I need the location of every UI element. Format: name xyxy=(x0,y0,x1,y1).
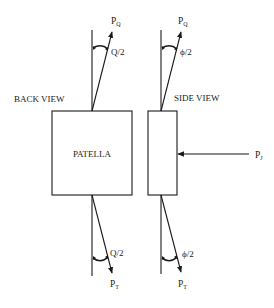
patella-label: PATELLA xyxy=(73,149,112,159)
back-bottom-angle-label: Q/2 xyxy=(110,248,124,258)
side-top-force-symbol: PQ xyxy=(178,16,188,27)
side-view-title: SIDE VIEW xyxy=(174,93,220,103)
side-bottom-angle-label: ϕ/2 xyxy=(182,249,194,259)
back-top-angle-label: Q/2 xyxy=(111,47,125,57)
back-view-title: BACK VIEW xyxy=(14,94,65,104)
back-bottom-force-symbol: PT xyxy=(110,279,119,290)
back-top-force-arrow xyxy=(92,32,112,111)
patella-side-box xyxy=(148,111,177,195)
side-bottom-force-symbol: PT xyxy=(178,279,187,290)
side-view: SIDE VIEW ϕ/2 PQ PJ ϕ/2 PT xyxy=(148,16,263,290)
back-top-force-symbol: PQ xyxy=(111,16,121,27)
joint-force-symbol: PJ xyxy=(255,150,263,161)
back-view: BACK VIEW PATELLA Q/2 PQ Q/2 PT xyxy=(14,16,132,290)
side-top-angle-label: ϕ/2 xyxy=(180,47,192,57)
patella-force-diagram: BACK VIEW PATELLA Q/2 PQ Q/2 PT SIDE VIE… xyxy=(0,0,274,308)
